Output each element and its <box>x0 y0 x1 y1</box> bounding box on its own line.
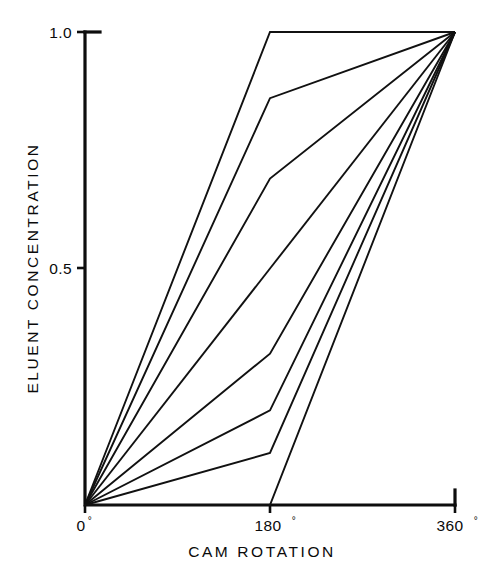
y-tick-label-top: 1.0 <box>49 24 72 41</box>
degree-symbol-icon-end: ° <box>474 515 478 526</box>
x-tick-label-mid: 180 <box>254 517 281 534</box>
y-axis-title: ELUENT CONCENTRATION <box>24 142 41 393</box>
x-tick-label-start: 0 <box>76 517 85 534</box>
x-tick-label-end: 360 <box>436 517 463 534</box>
chart-figure: 1.0 0.5 0 ° 180 ° 360 ° CAM ROTATION ELU… <box>0 0 496 570</box>
x-axis-title: CAM ROTATION <box>188 543 336 560</box>
chart-background <box>0 0 496 570</box>
degree-symbol-icon-mid: ° <box>292 515 296 526</box>
eluent-concentration-line-chart: 1.0 0.5 0 ° 180 ° 360 ° CAM ROTATION ELU… <box>0 0 496 570</box>
y-tick-label-mid: 0.5 <box>49 260 72 277</box>
degree-symbol-icon-start: ° <box>88 515 92 526</box>
